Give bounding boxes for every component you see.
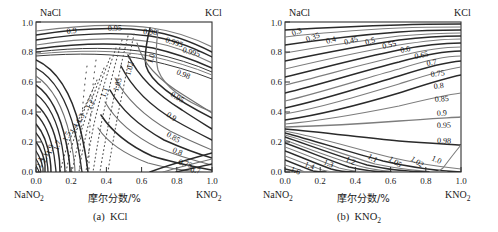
panel-b-caption: (b) KNO2: [337, 211, 381, 225]
panel-a-caption: (a) KCl: [93, 211, 127, 222]
svg-text:0.75: 0.75: [430, 68, 445, 79]
panel-b-xaxis-title: 摩尔分数/%: [337, 190, 390, 205]
svg-text:0.8: 0.8: [271, 47, 283, 57]
svg-text:0.8: 0.8: [433, 81, 444, 91]
panel-a-corner-nacl: NaCl: [40, 8, 61, 18]
panel-b-yticklabels: 0.0 0.2 0.4 0.6 0.8 1.0: [271, 18, 283, 177]
svg-text:1.0: 1.0: [206, 176, 218, 186]
svg-text:0.8: 0.8: [22, 47, 34, 57]
svg-text:0.85: 0.85: [434, 94, 449, 104]
svg-text:0.7: 0.7: [190, 165, 201, 176]
panel-b-corner-kno2-sub: 2: [467, 194, 471, 203]
panel-a-corner-kno2-text: KNO: [196, 189, 218, 200]
svg-text:0.2: 0.2: [315, 176, 326, 186]
svg-text:0.8: 0.8: [420, 176, 432, 186]
svg-text:0.0: 0.0: [279, 176, 291, 186]
panel-a: 0.9 0.95 0.98 0.995 1.0 0.995 0.98 0.95 …: [0, 0, 249, 232]
panel-a-caption-index: (a): [93, 211, 105, 222]
panel-b-xticklabels: 0.0 0.2 0.4 0.6 0.8 1.0: [279, 176, 467, 186]
svg-text:0.6: 0.6: [22, 77, 34, 87]
svg-text:0.2: 0.2: [22, 137, 33, 147]
panel-a-corner-nano2-text: NaNO: [14, 189, 40, 200]
panel-b: 0.3 0.35 0.4 0.45 0.5 0.55 0.6 0.65 0.7 …: [249, 0, 498, 232]
svg-text:0.98: 0.98: [437, 136, 451, 145]
svg-text:0.98: 0.98: [143, 27, 158, 37]
panel-a-caption-species: KCl: [110, 211, 128, 222]
panel-b-caption-index: (b): [337, 211, 349, 222]
svg-text:0.9: 0.9: [437, 108, 448, 118]
svg-text:0.0: 0.0: [30, 176, 42, 186]
panel-b-corner-kcl: KCl: [454, 8, 471, 18]
panel-a-xaxis-title: 摩尔分数/%: [88, 190, 141, 205]
svg-text:0.6: 0.6: [271, 77, 283, 87]
svg-text:1.0: 1.0: [22, 18, 34, 28]
svg-text:0.95: 0.95: [108, 23, 122, 33]
panel-b-corner-nano2: NaNO2: [263, 190, 293, 204]
panel-a-yticklabels: 0.0 0.2 0.4 0.6 0.8 1.0: [22, 18, 34, 177]
svg-text:0.0: 0.0: [271, 167, 283, 177]
svg-text:0.4: 0.4: [101, 176, 113, 186]
svg-text:1.0: 1.0: [455, 176, 467, 186]
svg-text:0.0: 0.0: [22, 167, 34, 177]
svg-text:1.0: 1.0: [271, 18, 283, 28]
panel-b-corner-nano2-sub: 2: [289, 194, 293, 203]
svg-text:0.2: 0.2: [271, 137, 282, 147]
panel-b-corner-nano2-text: NaNO: [263, 189, 289, 200]
panel-a-corner-nano2: NaNO2: [14, 190, 44, 204]
panel-a-corner-kno2-sub: 2: [218, 194, 222, 203]
svg-text:0.7: 0.7: [426, 58, 437, 68]
svg-text:0.4: 0.4: [350, 176, 362, 186]
panel-a-xticklabels: 0.0 0.2 0.4 0.6 0.8 1.0: [30, 176, 218, 186]
svg-text:0.6: 0.6: [136, 176, 148, 186]
panel-b-corner-nacl: NaCl: [289, 8, 310, 18]
svg-text:0.9: 0.9: [66, 26, 77, 36]
svg-text:0.4: 0.4: [22, 107, 34, 117]
svg-text:0.8: 0.8: [171, 176, 183, 186]
panel-a-corner-kcl: KCl: [205, 8, 222, 18]
panel-a-corner-kno2: KNO2: [196, 190, 221, 204]
panel-a-corner-nano2-sub: 2: [40, 194, 44, 203]
figure-root: 0.9 0.95 0.98 0.995 1.0 0.995 0.98 0.95 …: [0, 0, 498, 232]
svg-text:0.2: 0.2: [66, 176, 77, 186]
panel-b-caption-species-sub: 2: [377, 216, 381, 225]
panel-b-corner-kno2: KNO2: [445, 190, 470, 204]
svg-text:0.95: 0.95: [437, 121, 451, 130]
panel-b-corner-kno2-text: KNO: [445, 189, 467, 200]
panel-b-caption-species: KNO: [355, 211, 378, 222]
svg-text:0.6: 0.6: [385, 176, 397, 186]
svg-text:0.4: 0.4: [271, 107, 283, 117]
